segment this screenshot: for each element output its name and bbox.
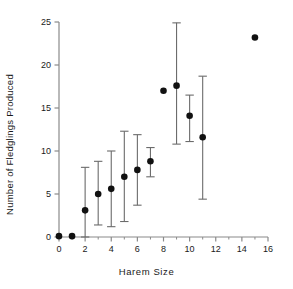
chart-figure: Number of Fledglings Produced 0246810121… bbox=[0, 0, 293, 289]
y-tick-label: 25 bbox=[41, 17, 51, 27]
y-tick-label: 20 bbox=[41, 60, 51, 70]
data-point-marker bbox=[160, 88, 167, 95]
data-point-marker bbox=[56, 233, 63, 240]
y-tick-label: 5 bbox=[46, 189, 51, 199]
x-tick-label: 4 bbox=[109, 244, 114, 254]
data-point-marker bbox=[147, 158, 154, 165]
data-point-marker bbox=[199, 134, 206, 141]
data-point-marker bbox=[95, 191, 102, 198]
data-point-marker bbox=[69, 233, 76, 240]
data-point-marker bbox=[186, 112, 193, 119]
y-tick-label: 0 bbox=[46, 232, 51, 242]
data-point-marker bbox=[134, 167, 141, 174]
data-point-marker bbox=[252, 34, 259, 41]
data-point-marker bbox=[82, 207, 89, 214]
x-tick-label: 2 bbox=[83, 244, 88, 254]
x-tick-label: 8 bbox=[161, 244, 166, 254]
x-tick-label: 10 bbox=[185, 244, 195, 254]
x-tick-label: 16 bbox=[263, 244, 273, 254]
x-axis-label: Harem Size bbox=[0, 266, 293, 277]
x-tick-label: 0 bbox=[56, 244, 61, 254]
data-point-marker bbox=[108, 186, 115, 193]
error-bar bbox=[81, 167, 89, 237]
y-tick-label: 10 bbox=[41, 146, 51, 156]
x-tick-label: 14 bbox=[237, 244, 247, 254]
data-point-marker bbox=[173, 82, 180, 89]
x-tick-label: 12 bbox=[211, 244, 221, 254]
scatter-plot-canvas: 02468101214160510152025 bbox=[0, 0, 293, 289]
y-tick-label: 15 bbox=[41, 103, 51, 113]
data-point-marker bbox=[121, 174, 128, 181]
x-tick-label: 6 bbox=[135, 244, 140, 254]
